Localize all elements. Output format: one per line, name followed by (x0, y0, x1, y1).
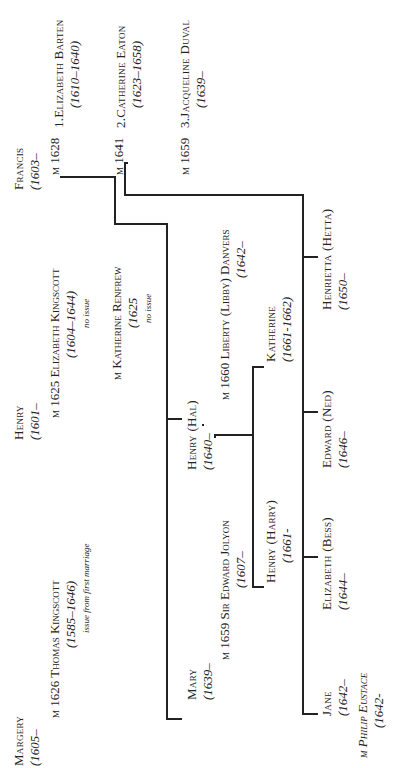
spouse-jacqueline-duval: 3.Jacqueline Duval (178, 20, 191, 128)
person-margery-name: Margery (12, 716, 25, 766)
family-tree: Margery (1605– m 1626 Thomas Kingscott (… (0, 0, 405, 768)
note-issue-first-marriage: issue from first marriage (82, 544, 91, 633)
line-hal-stub (214, 436, 216, 438)
spouse-catherine-eaton-dates: (1623–1658) (130, 41, 143, 108)
line-hal-children-drop (214, 434, 254, 436)
note-no-issue-1: no issue (82, 299, 91, 328)
marriage-jane-eustace: m Philip Eustace (356, 673, 369, 758)
marriage-henry-katherine: m Katherine Renfrew (110, 266, 123, 380)
person-hetta-dates: (1650– (336, 273, 349, 310)
spouse-elizabeth-barten-dates: (1610–1640) (68, 41, 81, 108)
spouse-thomas-dates: (1585–1646) (64, 581, 77, 648)
line-to-hal (166, 418, 182, 420)
line-hal-children-bus (252, 366, 254, 588)
line-to-katherine (252, 366, 264, 368)
line-marriage-1641-stub (124, 162, 126, 196)
person-bess-name: Elizabeth (Bess) (320, 517, 333, 610)
marriage-mary-jolyon: m 1659 Sir Edward Jolyon (218, 520, 231, 660)
person-henry-name: Henry (12, 405, 25, 440)
line-gen2b-drop (124, 194, 304, 196)
spouse-elizabeth-kingscott-dates: (1604–1644) (64, 291, 77, 358)
line-marriage-1628-drop (60, 176, 116, 178)
spouse-eustace-dates: (1642- (372, 693, 385, 728)
person-hal-name: Henry (Hal) (185, 400, 198, 470)
line-gen2-bus (166, 223, 168, 720)
person-mary-dates: (1639– (201, 663, 214, 700)
note-no-issue-2: no issue (144, 294, 153, 323)
line-to-bess (302, 556, 318, 558)
marriage-henry-elizabeth: m 1625 Elizabeth Kingscott (48, 268, 61, 418)
person-harry-dates: (1661- (280, 528, 293, 563)
person-ned-dates: (1646– (336, 431, 349, 468)
line-marriage-1628-to-bus (114, 176, 116, 225)
spouse-katherine-renfrew-dates: (1625 (126, 298, 139, 328)
person-jane-dates: (1642– (336, 679, 349, 716)
line-to-hetta (302, 256, 318, 258)
marriage-label-1659: m 1659 (178, 138, 191, 175)
person-francis-name: Francis (12, 148, 25, 190)
line-to-harry (252, 586, 264, 588)
spouse-libby-dates: (1642– (234, 241, 247, 278)
marriage-margery-thomas: m 1626 Thomas Kingscott (48, 580, 61, 718)
spouse-jacqueline-duval-dates: (1639– (194, 71, 207, 108)
line-gen2-bus-drop (114, 223, 168, 225)
person-margery-dates: (1605– (28, 729, 41, 766)
person-ned-name: Edward (Ned) (320, 390, 333, 468)
line-hal-marriage-tick (202, 424, 204, 426)
person-harry-name: Henry (Harry) (264, 500, 277, 583)
person-hetta-name: Henrietta (Hetta) (320, 209, 333, 310)
line-to-mary (166, 718, 182, 720)
spouse-jolyon-dates: (1607– (234, 551, 247, 588)
line-gen2b-bus (302, 194, 304, 715)
person-hal-dates: (1640– (201, 433, 214, 470)
person-francis-dates: (1603– (28, 153, 41, 190)
marriage-hal-libby: m 1660 Liberty (Libby) Danvers (218, 230, 231, 400)
person-katherine-dates: (1661-1662) (280, 297, 293, 362)
person-jane-name: Jane (320, 691, 333, 716)
line-to-jane (302, 713, 318, 715)
spouse-elizabeth-barten: 1.Elizabeth Barten (52, 20, 65, 128)
marriage-label-1628: m 1628 (48, 138, 61, 175)
person-katherine-name: Katherine (264, 306, 277, 362)
person-henry-dates: (1601– (28, 403, 41, 440)
person-mary-name: Mary (185, 669, 198, 700)
spouse-catherine-eaton: 2.Catherine Eaton (114, 25, 127, 128)
person-bess-dates: (1644– (336, 573, 349, 610)
line-to-ned (302, 411, 318, 413)
